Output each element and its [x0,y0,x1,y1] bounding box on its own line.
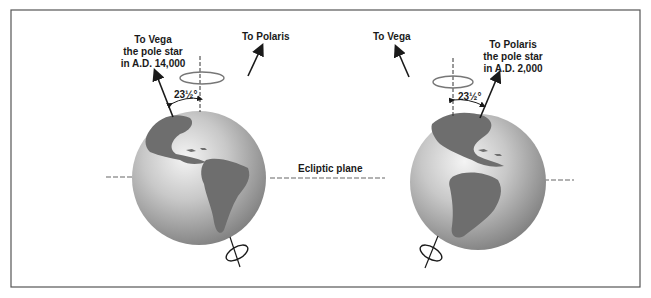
left-globe [132,111,266,245]
right-vega-label: To Vega [373,31,411,43]
diagram-canvas [0,0,651,298]
right-vega-arrow [396,47,409,77]
left-south-rotation [224,242,251,264]
precession-diagram: To Vega the pole star in A.D. 14,000 To … [0,0,651,298]
right-globe [410,113,546,250]
ecliptic-plane-label: Ecliptic plane [298,163,362,175]
left-vega-label: To Vega the pole star in A.D. 14,000 [118,34,188,70]
left-polaris-arrow [248,46,262,76]
left-tilt-angle: 23½° [174,89,197,100]
right-polaris-arrow [480,73,499,118]
left-rotation-ellipse [180,72,224,84]
left-polaris-label: To Polaris [242,31,290,43]
left-vega-arrow [155,71,173,117]
left-south-axis [230,237,240,267]
right-polaris-label: To Polaris the pole star in A.D. 2,000 [478,39,548,75]
right-south-axis [425,236,438,268]
right-tilt-angle: 23½° [458,91,481,102]
